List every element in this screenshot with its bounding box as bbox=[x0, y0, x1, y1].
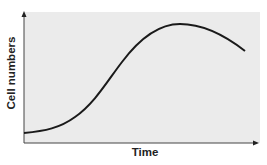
growth-curve-chart bbox=[0, 0, 267, 165]
x-axis-label: Time bbox=[110, 146, 180, 158]
y-axis-label: Cell numbers bbox=[5, 28, 17, 118]
plot-area bbox=[24, 12, 260, 143]
